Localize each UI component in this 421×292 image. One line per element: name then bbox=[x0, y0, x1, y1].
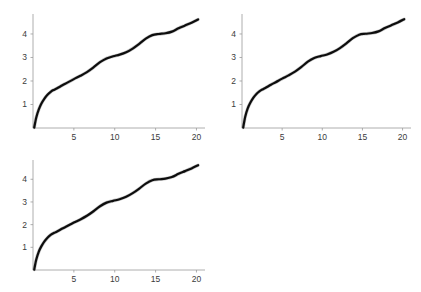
x-tick-label: 15 bbox=[358, 132, 368, 142]
y-tick-label: 4 bbox=[231, 29, 236, 39]
y-tick-label: 2 bbox=[22, 76, 27, 86]
figure-canvas: 51015201234 51015201234 51015201234 bbox=[0, 0, 421, 292]
panel-bottom-left: 51015201234 bbox=[0, 146, 215, 292]
x-tick-label: 5 bbox=[280, 132, 285, 142]
data-curve-shadow bbox=[34, 165, 198, 269]
data-curve bbox=[34, 165, 198, 269]
y-tick-label: 4 bbox=[22, 174, 27, 184]
y-tick-label: 2 bbox=[231, 76, 236, 86]
x-tick-label: 20 bbox=[398, 132, 408, 142]
x-tick-label: 5 bbox=[71, 132, 76, 142]
chart-top-right: 51015201234 bbox=[212, 0, 421, 146]
x-tick-label: 10 bbox=[110, 274, 120, 284]
y-tick-label: 1 bbox=[22, 242, 27, 252]
chart-top-left: 51015201234 bbox=[0, 0, 215, 146]
x-tick-label: 15 bbox=[151, 274, 161, 284]
y-tick-label: 1 bbox=[231, 99, 236, 109]
data-curve-shadow bbox=[243, 19, 404, 127]
y-tick-label: 3 bbox=[22, 52, 27, 62]
data-curve bbox=[243, 19, 404, 127]
data-curve-shadow bbox=[34, 19, 198, 127]
x-tick-label: 10 bbox=[318, 132, 328, 142]
x-tick-label: 15 bbox=[151, 132, 161, 142]
y-tick-label: 4 bbox=[22, 29, 27, 39]
x-tick-label: 20 bbox=[192, 274, 202, 284]
panel-top-left: 51015201234 bbox=[0, 0, 215, 146]
x-tick-label: 10 bbox=[110, 132, 120, 142]
data-curve bbox=[34, 19, 198, 127]
x-tick-label: 20 bbox=[192, 132, 202, 142]
y-tick-label: 3 bbox=[231, 52, 236, 62]
y-tick-label: 1 bbox=[22, 99, 27, 109]
x-tick-label: 5 bbox=[71, 274, 76, 284]
y-tick-label: 3 bbox=[22, 197, 27, 207]
chart-bottom-left: 51015201234 bbox=[0, 146, 215, 292]
y-tick-label: 2 bbox=[22, 220, 27, 230]
panel-top-right: 51015201234 bbox=[212, 0, 421, 146]
